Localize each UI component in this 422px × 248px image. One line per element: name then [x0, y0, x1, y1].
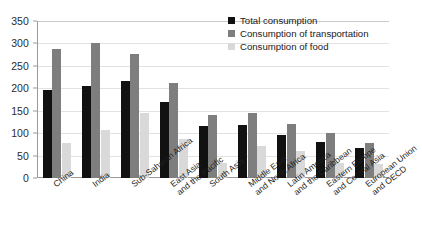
- y-axis-tick-label: 200: [11, 82, 29, 94]
- legend-item: Consumption of transportation: [228, 27, 369, 39]
- y-axis-tick-label: 100: [11, 127, 29, 139]
- bar: [82, 86, 91, 178]
- y-axis-tick-label: 150: [11, 105, 29, 117]
- legend-label: Consumption of food: [240, 41, 329, 52]
- bar: [121, 81, 130, 178]
- legend-item: Total consumption: [228, 14, 369, 26]
- bar: [238, 125, 247, 178]
- bar: [248, 113, 257, 178]
- legend-label: Consumption of transportation: [240, 28, 369, 39]
- legend-label: Total consumption: [240, 15, 317, 26]
- legend-swatch-icon: [228, 30, 235, 37]
- bar-group: [37, 21, 76, 178]
- bar: [130, 54, 139, 178]
- x-axis-labels: ChinaIndiaSub-Saharan AfricaEast Asiaand…: [37, 180, 389, 248]
- legend-swatch-icon: [228, 43, 235, 50]
- y-axis-tick-label: 50: [17, 150, 29, 162]
- y-axis-tick-label: 250: [11, 60, 29, 72]
- legend-swatch-icon: [228, 17, 235, 24]
- y-axis-tick-label: 0: [23, 172, 29, 184]
- y-axis: 050100150200250300350: [0, 0, 37, 199]
- bar: [91, 43, 100, 178]
- legend-item: Consumption of food: [228, 40, 369, 52]
- bar: [169, 83, 178, 178]
- y-axis-tick-label: 300: [11, 37, 29, 49]
- bar-group: [115, 21, 154, 178]
- y-axis-tick-label: 350: [11, 15, 29, 27]
- bar-group: [76, 21, 115, 178]
- bar: [52, 49, 61, 178]
- chart-legend: Total consumptionConsumption of transpor…: [228, 12, 369, 55]
- bar: [43, 90, 52, 178]
